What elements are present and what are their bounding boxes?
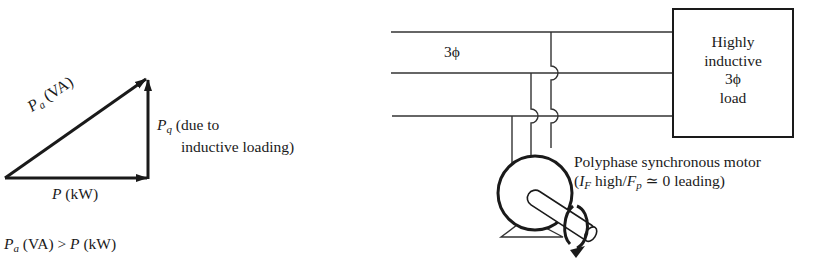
reactive-power-label: Pq (due to inductive loading) (157, 116, 294, 155)
apparent-power-vector (5, 79, 146, 178)
load-box-label: Highly inductive 3ϕ load (673, 33, 793, 107)
motor-label: Polyphase synchronous motor (IF high/Fp … (574, 152, 761, 195)
motor-lead-a (551, 32, 558, 148)
three-phase-bus-label: 3ϕ (444, 43, 460, 60)
power-triangle (5, 79, 148, 179)
power-inequality: Pa (VA) > P (kW) (4, 235, 116, 257)
three-phase-bus (391, 32, 673, 172)
real-power-label: P (kW) (52, 185, 98, 202)
